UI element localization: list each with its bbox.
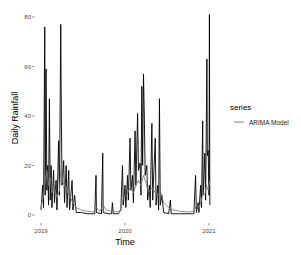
legend-label-arima: ARIMA Model <box>249 119 289 126</box>
rainfall-chart: 020406080 201920202021 Time Daily Rainfa… <box>0 0 301 255</box>
legend-title: series <box>230 103 251 112</box>
x-tick-label: 2019 <box>34 228 48 234</box>
plot-area <box>41 15 210 214</box>
y-tick-label: 0 <box>28 212 32 218</box>
series-line-observed <box>41 15 210 214</box>
x-axis: 201920202021 <box>34 223 216 234</box>
y-axis: 020406080 <box>24 14 34 218</box>
x-axis-title: Time <box>115 237 135 247</box>
y-tick-label: 40 <box>24 113 31 119</box>
y-axis-title: Daily Rainfall <box>10 92 20 145</box>
y-tick-label: 80 <box>24 14 31 20</box>
y-tick-label: 20 <box>24 163 31 169</box>
y-tick-label: 60 <box>24 64 31 70</box>
legend: series ARIMA Model <box>230 103 289 126</box>
x-tick-label: 2020 <box>118 228 132 234</box>
x-tick-label: 2021 <box>202 228 216 234</box>
